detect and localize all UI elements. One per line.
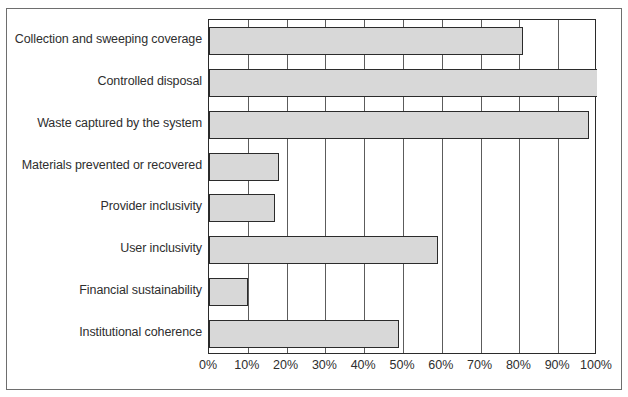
bar-band [209, 153, 595, 181]
bar [209, 69, 597, 97]
category-label: Financial sustainability [7, 283, 202, 297]
bar-series [209, 20, 595, 353]
category-label: Provider inclusivity [7, 199, 202, 213]
bar [209, 153, 279, 181]
bar-band [209, 27, 595, 55]
x-tick-label: 20% [273, 358, 298, 372]
bar-band [209, 111, 595, 139]
x-tick-label: 80% [506, 358, 531, 372]
bar-band [209, 194, 595, 222]
x-axis-tick-labels: 0%10%20%30%40%50%60%70%80%90%100% [208, 358, 596, 380]
x-tick-label: 50% [389, 358, 414, 372]
bar [209, 194, 275, 222]
category-axis-labels: Collection and sweeping coverageControll… [7, 19, 202, 354]
bar-band [209, 320, 595, 348]
category-label: Controlled disposal [7, 74, 202, 88]
x-tick-label: 60% [428, 358, 453, 372]
category-label: User inclusivity [7, 241, 202, 255]
bar [209, 111, 589, 139]
bar [209, 236, 438, 264]
x-tick-label: 0% [199, 358, 217, 372]
category-label: Collection and sweeping coverage [7, 32, 202, 46]
category-label: Materials prevented or recovered [7, 158, 202, 172]
category-label: Institutional coherence [7, 325, 202, 339]
x-tick-label: 30% [312, 358, 337, 372]
category-label: Waste captured by the system [7, 116, 202, 130]
plot-area [208, 19, 596, 354]
bar-band [209, 278, 595, 306]
x-tick-label: 10% [234, 358, 259, 372]
bar-band [209, 69, 595, 97]
x-tick-label: 100% [580, 358, 612, 372]
bar [209, 320, 399, 348]
figure-frame: Collection and sweeping coverageControll… [6, 8, 622, 390]
bar-band [209, 236, 595, 264]
bar [209, 278, 248, 306]
x-tick-label: 70% [467, 358, 492, 372]
x-tick-label: 40% [351, 358, 376, 372]
x-tick-label: 90% [545, 358, 570, 372]
bar [209, 27, 523, 55]
